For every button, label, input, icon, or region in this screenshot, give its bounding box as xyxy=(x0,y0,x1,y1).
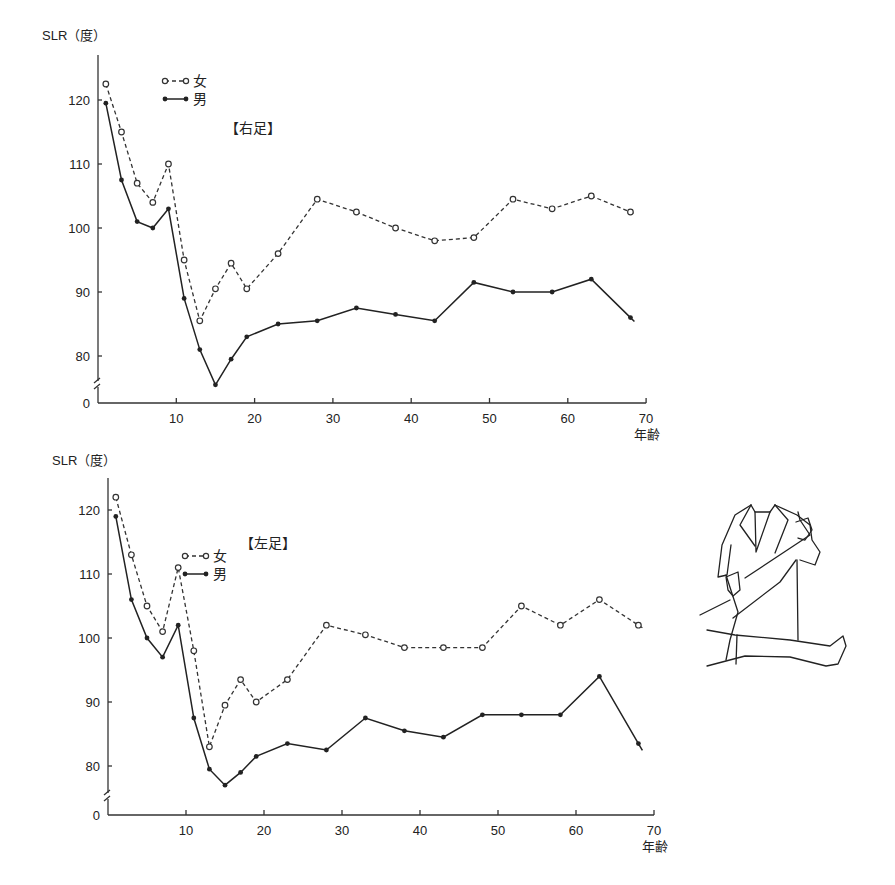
data-point xyxy=(597,674,602,679)
data-point xyxy=(285,741,290,746)
data-point xyxy=(103,81,109,87)
data-point xyxy=(103,101,108,106)
data-point xyxy=(441,735,446,740)
data-point xyxy=(175,565,181,571)
data-point xyxy=(197,318,203,324)
data-point xyxy=(519,712,524,717)
straight-leg-raise-illustration-icon xyxy=(700,505,846,666)
axis-break-icon xyxy=(104,790,110,801)
data-point xyxy=(182,296,187,301)
data-point xyxy=(244,286,250,292)
data-point xyxy=(628,315,633,320)
y-tick-label: 90 xyxy=(76,285,90,300)
data-point xyxy=(254,754,259,759)
data-point xyxy=(402,645,408,651)
legend-female-label: 女 xyxy=(213,548,227,564)
data-point xyxy=(354,306,359,311)
x-tick-label: 50 xyxy=(491,823,505,838)
data-point xyxy=(441,645,447,651)
x-tick-label: 60 xyxy=(569,823,583,838)
x-tick-label: 10 xyxy=(179,823,193,838)
legend: 女男 xyxy=(162,73,207,107)
data-point xyxy=(213,382,218,387)
chart-left-leg: 8090100110120010203040506070SLR（度）年齢【左足】… xyxy=(52,453,668,854)
data-point xyxy=(150,226,155,231)
y-tick-label: 0 xyxy=(93,808,100,823)
y-tick-label: 100 xyxy=(68,221,90,236)
legend: 女男 xyxy=(182,548,227,582)
y-tick-label: 90 xyxy=(86,695,100,710)
data-point xyxy=(222,702,228,708)
data-point xyxy=(315,318,320,323)
data-point xyxy=(191,716,196,721)
data-point xyxy=(129,552,135,558)
data-point xyxy=(207,744,213,750)
data-point xyxy=(432,238,438,244)
data-point xyxy=(285,677,291,683)
data-point xyxy=(160,655,165,660)
data-point xyxy=(363,632,369,638)
data-point xyxy=(229,357,234,362)
x-tick-label: 20 xyxy=(247,411,261,426)
y-axis-label: SLR（度） xyxy=(42,28,106,43)
data-point xyxy=(636,741,641,746)
data-point xyxy=(393,225,399,231)
data-point xyxy=(253,699,259,705)
data-point xyxy=(191,648,197,654)
slr-figure: 8090100110120010203040506070SLR（度）年齢【右足】… xyxy=(0,0,895,885)
data-point xyxy=(135,219,140,224)
data-point xyxy=(129,597,134,602)
x-tick-label: 40 xyxy=(413,823,427,838)
x-tick-label: 20 xyxy=(257,823,271,838)
data-point xyxy=(511,290,516,295)
data-point xyxy=(324,622,330,628)
legend-female-label: 女 xyxy=(193,73,207,89)
data-point xyxy=(597,597,603,603)
data-point xyxy=(244,334,249,339)
data-point xyxy=(589,277,594,282)
data-point xyxy=(144,603,150,609)
data-point xyxy=(238,677,244,683)
legend-male-label: 男 xyxy=(213,566,227,582)
data-point xyxy=(181,257,187,263)
data-point xyxy=(275,251,281,257)
x-tick-label: 40 xyxy=(404,411,418,426)
x-tick-label: 70 xyxy=(639,411,653,426)
x-tick-label: 30 xyxy=(326,411,340,426)
data-point xyxy=(363,716,368,721)
y-tick-label: 120 xyxy=(78,503,100,518)
data-point xyxy=(402,728,407,733)
y-axis-label: SLR（度） xyxy=(52,453,116,468)
x-tick-label: 60 xyxy=(561,411,575,426)
data-point xyxy=(471,280,476,285)
data-point xyxy=(207,767,212,772)
x-tick-label: 10 xyxy=(169,411,183,426)
axis-break-icon xyxy=(94,378,100,389)
data-point xyxy=(276,322,281,327)
data-point xyxy=(160,629,166,635)
x-tick-label: 50 xyxy=(482,411,496,426)
data-point xyxy=(588,193,594,199)
x-tick-label: 30 xyxy=(335,823,349,838)
y-tick-label: 110 xyxy=(79,567,100,582)
data-point xyxy=(549,206,555,212)
x-tick-label: 70 xyxy=(647,823,661,838)
legend-male-label: 男 xyxy=(193,91,207,107)
data-point xyxy=(471,235,477,241)
data-point xyxy=(558,622,564,628)
data-point xyxy=(324,748,329,753)
data-point xyxy=(197,347,202,352)
data-point xyxy=(314,196,320,202)
data-point xyxy=(480,645,486,651)
data-point xyxy=(519,603,525,609)
data-point xyxy=(628,209,634,215)
chart-title: 【左足】 xyxy=(240,535,296,551)
data-point xyxy=(166,206,171,211)
chart-right-leg: 8090100110120010203040506070SLR（度）年齢【右足】… xyxy=(42,28,660,442)
data-point xyxy=(113,494,119,500)
data-point xyxy=(119,178,124,183)
data-point xyxy=(150,200,156,206)
y-tick-label: 110 xyxy=(69,157,90,172)
data-point xyxy=(228,260,234,266)
y-tick-label: 0 xyxy=(83,396,90,411)
